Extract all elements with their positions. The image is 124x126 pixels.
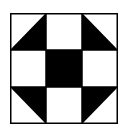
quilt-block <box>10 13 118 124</box>
center-square <box>46 50 82 87</box>
quilt-block-svg <box>10 13 118 124</box>
